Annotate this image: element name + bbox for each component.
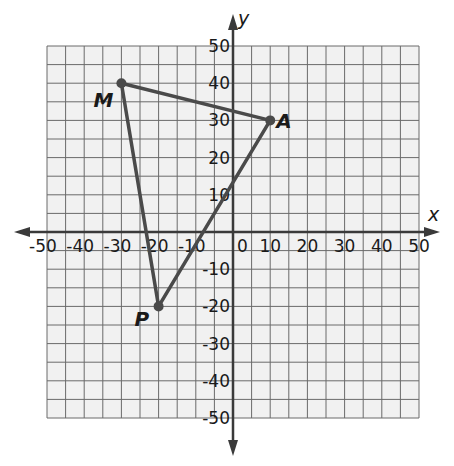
y-tick-label: -10 [202,259,230,279]
point-label-a: A [274,109,291,133]
point-p [154,301,164,311]
x-tick-label: -20 [141,236,169,256]
x-tick-label: 0 [237,236,248,256]
y-axis-down-arrow-icon [228,440,238,456]
x-tick-label: -30 [104,236,132,256]
y-tick-label: 50 [208,36,230,56]
coordinate-plane: x y -50-40-30-20-10010203040505040302010… [0,0,454,466]
x-axis-left-arrow-icon [14,227,30,237]
y-tick-label: -50 [202,408,230,428]
y-axis-up-arrow-icon [228,14,238,30]
y-tick-label: 20 [208,148,230,168]
point-label-m: M [93,88,113,112]
point-a [265,115,275,125]
y-tick-label: 40 [208,73,230,93]
y-tick-label: -40 [202,371,230,391]
x-tick-label: 20 [297,236,319,256]
x-tick-label: 10 [259,236,281,256]
point-label-p: P [135,307,150,331]
y-tick-label: -30 [202,334,230,354]
y-axis-label: y [237,7,250,29]
x-tick-label: 40 [371,236,393,256]
x-axis-label: x [427,203,440,225]
x-tick-label: -40 [66,236,94,256]
x-tick-label: 50 [408,236,430,256]
x-tick-label: 30 [334,236,356,256]
y-tick-label: -20 [202,296,230,316]
y-tick-label: 30 [208,110,230,130]
x-tick-label: -50 [29,236,57,256]
point-m [116,78,126,88]
